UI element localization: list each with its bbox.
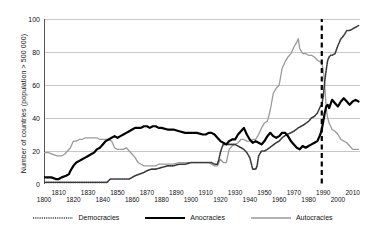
x-tick-label: 1820 — [60, 196, 86, 203]
x-tick-label: 1940 — [237, 196, 263, 203]
chart-figure: Number of countries (population > 500 00… — [0, 0, 366, 239]
legend-swatch-solid-black-thick — [145, 215, 185, 221]
series-line-anocracies — [44, 98, 359, 179]
x-tick-label: 1900 — [178, 196, 204, 203]
x-tick-label: 1870 — [134, 189, 160, 196]
legend-item-autocracies[interactable]: Autocracies — [251, 214, 333, 221]
legend-label: Anocracies — [190, 214, 225, 221]
legend-item-democracies[interactable]: Democracies — [33, 214, 119, 221]
x-tick-label: 1970 — [281, 189, 307, 196]
x-tick-label: 1980 — [296, 196, 322, 203]
x-tick-label: 1880 — [149, 196, 175, 203]
chart-legend: DemocraciesAnocraciesAutocracies — [0, 214, 366, 221]
x-tick-label: 1800 — [31, 196, 57, 203]
y-axis-title: Number of countries (population > 500 00… — [20, 19, 27, 189]
x-tick-label: 1840 — [90, 196, 116, 203]
chart-canvas — [44, 19, 360, 184]
legend-label: Autocracies — [296, 214, 333, 221]
x-tick-label: 1950 — [251, 189, 277, 196]
x-tick-label: 1990 — [310, 189, 336, 196]
x-tick-label: 1910 — [193, 189, 219, 196]
legend-label: Democracies — [78, 214, 119, 221]
x-tick-label: 1960 — [266, 196, 292, 203]
legend-swatch-dotted-dark — [33, 215, 73, 221]
legend-item-anocracies[interactable]: Anocracies — [145, 214, 225, 221]
series-line-democracies — [44, 26, 359, 183]
plot-area — [44, 19, 360, 184]
x-tick-label: 1890 — [163, 189, 189, 196]
series-line-autocracies — [44, 39, 359, 166]
x-tick-label: 1930 — [222, 189, 248, 196]
x-tick-label: 2010 — [340, 189, 366, 196]
x-tick-label: 1860 — [119, 196, 145, 203]
x-tick-label: 1920 — [207, 196, 233, 203]
x-tick-label: 1810 — [46, 189, 72, 196]
x-tick-label: 1850 — [104, 189, 130, 196]
legend-swatch-solid-gray-thin — [251, 215, 291, 221]
x-tick-label: 1830 — [75, 189, 101, 196]
x-tick-label: 2000 — [325, 196, 351, 203]
